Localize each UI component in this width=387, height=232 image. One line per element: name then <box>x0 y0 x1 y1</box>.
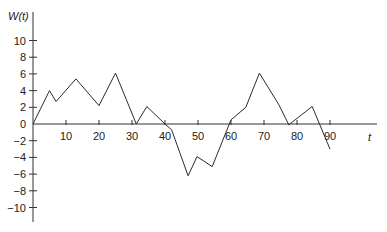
x-tick-label: 90 <box>324 130 336 142</box>
x-tick-label: 50 <box>192 130 204 142</box>
x-ticks: 102030405060708090 <box>60 120 336 142</box>
y-tick-label: −8 <box>13 185 26 197</box>
x-tick-label: 10 <box>60 130 72 142</box>
y-tick-label: −2 <box>13 135 26 147</box>
x-tick-label: 70 <box>258 130 270 142</box>
y-tick-label: −6 <box>13 168 26 180</box>
y-tick-label: −10 <box>7 202 26 214</box>
y-axis-label: W(t) <box>8 10 29 22</box>
y-tick-label: 6 <box>20 68 26 80</box>
x-tick-label: 60 <box>225 130 237 142</box>
y-tick-label: 4 <box>20 85 26 97</box>
x-tick-label: 30 <box>126 130 138 142</box>
x-tick-label: 20 <box>93 130 105 142</box>
y-tick-label: 2 <box>20 101 26 113</box>
y-tick-label: −4 <box>13 151 26 163</box>
axes <box>33 12 377 222</box>
x-tick-label: 40 <box>159 130 171 142</box>
x-tick-label: 80 <box>291 130 303 142</box>
y-tick-label: 10 <box>14 35 26 47</box>
x-axis-label: t <box>368 131 372 143</box>
y-tick-label: 8 <box>20 51 26 63</box>
y-tick-label: 0 <box>20 118 26 130</box>
line-chart: 102030405060708090 1086420−2−4−6−8−10 W(… <box>0 0 387 232</box>
